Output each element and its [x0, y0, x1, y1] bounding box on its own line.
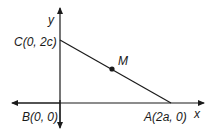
point-M-label: M — [118, 55, 128, 67]
point-C-label: C(0, 2c) — [14, 36, 57, 48]
point-A-label: A(2a, 0) — [144, 111, 187, 123]
x-axis-label: x — [194, 108, 200, 120]
y-axis-label: y — [48, 14, 54, 26]
point-B-label: B(0, 0) — [22, 111, 58, 123]
midpoint-M — [109, 66, 114, 71]
coordinate-diagram: y C(0, 2c) M B(0, 0) A(2a, 0) x — [0, 0, 213, 134]
segment-CA — [60, 40, 171, 103]
